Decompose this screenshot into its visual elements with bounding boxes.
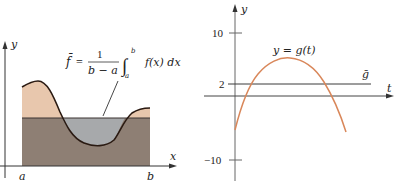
curve-g-label: y = g(t) xyxy=(272,44,315,57)
t-axis-label: t xyxy=(387,82,392,95)
formula-leader-line xyxy=(103,81,118,116)
gbar-label: ḡ xyxy=(362,68,369,81)
formula-denominator: b − a xyxy=(88,64,118,77)
formula-numerator: 1 xyxy=(97,48,103,60)
tick-label-10: 10 xyxy=(212,27,224,39)
formula-integrand: f(x) dx xyxy=(144,56,181,69)
x-axis-arrow-icon xyxy=(169,164,177,169)
figure-canvas: y x a b f̄ = 1 b − a ∫ b a f(x) dx 10 2 … xyxy=(0,0,398,190)
average-value-formula: f̄ = 1 b − a ∫ b a f(x) dx xyxy=(65,47,181,80)
tick-label-2: 2 xyxy=(219,78,225,90)
left-diagram: y x a b f̄ = 1 b − a ∫ b a f(x) dx xyxy=(0,38,181,183)
y-axis-right-arrow-icon xyxy=(233,4,238,12)
integral-upper-limit: b xyxy=(131,47,136,55)
y-axis-label: y xyxy=(10,38,18,51)
formula-lhs: f̄ xyxy=(65,53,73,69)
x-axis-label: x xyxy=(170,150,177,163)
curve-g xyxy=(235,58,346,132)
right-diagram: 10 2 −10 ḡ y t y = g(t) xyxy=(204,3,394,181)
integral-lower-limit: a xyxy=(125,72,129,80)
interval-label-a: a xyxy=(19,170,26,183)
formula-equals: = xyxy=(76,55,83,69)
y-axis-right-label: y xyxy=(240,3,248,16)
interval-label-b: b xyxy=(147,170,154,183)
y-axis-arrow-icon xyxy=(3,41,8,49)
tick-label-minus-10: −10 xyxy=(204,154,222,166)
